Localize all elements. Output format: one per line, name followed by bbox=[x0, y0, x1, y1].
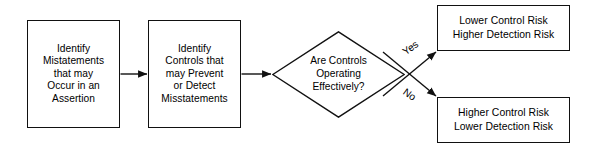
node-line: Identify bbox=[178, 43, 211, 56]
node-line: Controls that bbox=[165, 55, 223, 68]
node-line: Assertion bbox=[52, 93, 95, 106]
node-line: Operating bbox=[316, 68, 361, 81]
node-line: may Prevent bbox=[166, 68, 224, 81]
node-line: Identify bbox=[57, 43, 90, 56]
node-line: Mistatements bbox=[43, 55, 104, 68]
node-line: Are Controls bbox=[310, 55, 367, 68]
node-line: Higher Detection Risk bbox=[453, 28, 555, 43]
node-line: or Detect bbox=[174, 80, 216, 93]
decision-text-wrapper: Are Controls Operating Effectively? bbox=[272, 31, 405, 118]
node-line: Misstatements bbox=[161, 93, 227, 106]
node-higher-control-risk: Higher Control Risk Lower Detection Risk bbox=[437, 97, 570, 143]
node-lower-control-risk: Lower Control Risk Higher Detection Risk bbox=[437, 5, 570, 51]
node-line: Effectively? bbox=[313, 81, 365, 94]
node-line: Occur in an bbox=[47, 80, 100, 93]
node-line: Lower Detection Risk bbox=[454, 120, 553, 135]
node-identify-controls: Identify Controls that may Prevent or De… bbox=[148, 20, 241, 128]
node-line: Lower Control Risk bbox=[459, 14, 548, 29]
node-line: that may bbox=[54, 68, 93, 81]
flowchart-diagram: Identify Mistatements that may Occur in … bbox=[0, 0, 597, 149]
node-line: Higher Control Risk bbox=[458, 106, 549, 121]
node-controls-effective-decision: Are Controls Operating Effectively? bbox=[272, 31, 405, 118]
node-identify-misstatements: Identify Mistatements that may Occur in … bbox=[27, 20, 120, 128]
